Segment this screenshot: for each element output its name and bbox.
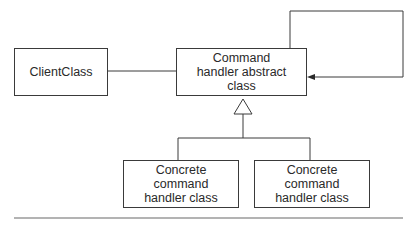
abstract-handler-box: Command handler abstract class xyxy=(176,48,307,96)
concrete-handler-label-2: Concrete command handler class xyxy=(275,163,349,205)
arrowhead-icon xyxy=(307,74,315,80)
concrete-handler-box-1: Concrete command handler class xyxy=(123,160,239,208)
generalization-triangle-icon xyxy=(234,99,252,114)
abstract-handler-label: Command handler abstract class xyxy=(197,51,287,93)
concrete-handler-box-2: Concrete command handler class xyxy=(254,160,370,208)
client-class-label: ClientClass xyxy=(29,65,92,79)
concrete-handler-label-1: Concrete command handler class xyxy=(144,163,218,205)
client-class-box: ClientClass xyxy=(14,48,108,96)
